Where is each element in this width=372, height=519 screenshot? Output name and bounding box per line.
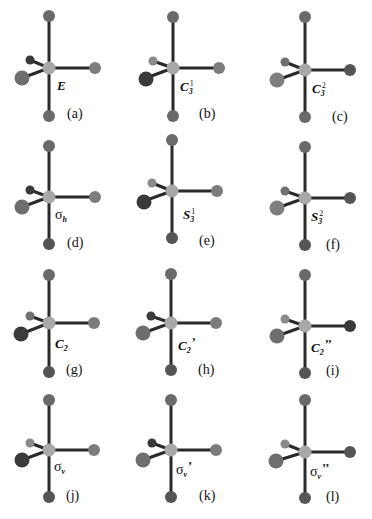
panel-e: S31 (e) <box>124 130 248 260</box>
panel-a: E (a) <box>0 0 124 130</box>
molecule-icon <box>248 130 372 260</box>
panel-h: C2’ (h) <box>124 260 248 390</box>
molecule-icon <box>0 390 124 519</box>
panel-c: C32 (c) <box>248 0 372 130</box>
panel-label: (l) <box>326 490 339 504</box>
operation-symbol: σh <box>55 208 67 224</box>
panel-label: (d) <box>67 236 83 250</box>
panel-label: (h) <box>198 363 214 377</box>
molecule-icon <box>124 130 248 260</box>
molecule-icon <box>0 130 124 260</box>
panel-j: σv (j) <box>0 390 124 519</box>
panel-label: (i) <box>326 364 339 378</box>
panel-label: (a) <box>67 107 83 121</box>
panel-label: (e) <box>199 234 215 248</box>
molecule-icon <box>0 0 124 130</box>
panel-label: (g) <box>66 363 82 377</box>
operation-symbol: C2’ <box>178 336 196 355</box>
panel-i: C2’’ (i) <box>248 260 372 390</box>
panel-label: (k) <box>199 489 215 503</box>
molecule-icon <box>124 390 248 519</box>
molecule-icon <box>248 0 372 130</box>
panel-label: (j) <box>66 489 79 503</box>
operation-symbol: S31 <box>183 208 195 224</box>
panel-b: C31 (b) <box>124 0 248 130</box>
operation-symbol: S32 <box>311 210 323 226</box>
molecule-icon <box>248 390 372 519</box>
operation-symbol: E <box>57 79 66 92</box>
panel-k: σv’ (k) <box>124 390 248 519</box>
panel-l: σv’’ (l) <box>248 390 372 519</box>
operation-symbol: σv’ <box>176 460 192 479</box>
molecule-icon <box>124 260 248 390</box>
operation-symbol: C2’’ <box>311 338 332 357</box>
molecule-icon <box>0 260 124 390</box>
operation-symbol: C31 <box>180 80 194 96</box>
panel-g: C2 (g) <box>0 260 124 390</box>
panel-label: (c) <box>332 110 348 124</box>
operation-symbol: C2 <box>55 337 68 353</box>
operation-symbol: C32 <box>312 82 326 98</box>
operation-symbol: σv <box>54 460 65 476</box>
panel-label: (b) <box>199 107 215 121</box>
panel-d: σh (d) <box>0 130 124 260</box>
panel-f: S32 (f) <box>248 130 372 260</box>
molecule-icon <box>124 0 248 130</box>
panel-label: (f) <box>326 238 340 252</box>
operation-symbol: σv’’ <box>310 462 329 481</box>
molecule-icon <box>248 260 372 390</box>
